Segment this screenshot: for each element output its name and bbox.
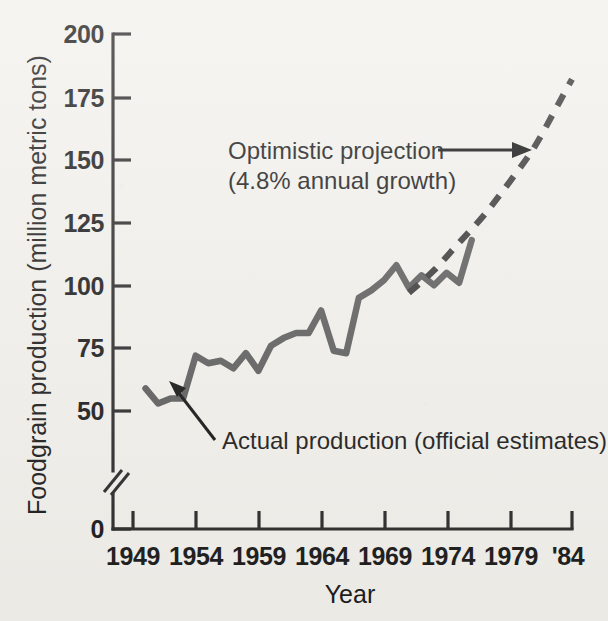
x-axis-title: Year	[325, 580, 376, 608]
chart-svg: Foodgrain production (million metric ton…	[0, 0, 608, 621]
series-actual-production	[146, 240, 472, 403]
optimistic-projection-line1: Optimistic projection	[228, 137, 444, 164]
annotation-actual-production: Actual production (official estimates)	[169, 381, 607, 454]
x-tick-label-1964: 1964	[295, 542, 350, 570]
y-tick-group	[113, 34, 131, 529]
x-tick-label-1959: 1959	[232, 542, 286, 570]
y-axis-title: Foodgrain production (million metric ton…	[23, 55, 51, 515]
y-tick-label-50: 50	[77, 397, 104, 425]
y-tick-label-150: 150	[63, 146, 104, 174]
y-tick-label-200: 200	[63, 20, 104, 48]
x-tick-group	[133, 511, 572, 529]
y-axis-break-icon	[104, 470, 129, 495]
x-tick-label-1984: '84	[552, 542, 585, 570]
arrow-up-left-icon	[169, 381, 215, 440]
y-tick-label-125: 125	[63, 209, 104, 237]
x-tick-label-1954: 1954	[169, 542, 224, 570]
chart-figure: Foodgrain production (million metric ton…	[0, 0, 608, 621]
y-tick-labels: 200 175 150 125 100 75 50 0	[63, 20, 104, 543]
arrow-right-icon	[438, 142, 532, 158]
x-tick-label-1974: 1974	[421, 542, 476, 570]
x-tick-label-1949: 1949	[106, 542, 160, 570]
optimistic-projection-line2: (4.8% annual growth)	[228, 167, 456, 194]
y-tick-label-75: 75	[77, 334, 105, 362]
actual-production-label: Actual production (official estimates)	[222, 427, 607, 454]
x-tick-label-1979: 1979	[484, 542, 538, 570]
y-axis	[104, 34, 129, 529]
x-tick-labels: 1949 1954 1959 1964 1969 1974 1979 '84	[106, 542, 585, 570]
y-tick-label-175: 175	[63, 84, 104, 112]
y-tick-label-0: 0	[90, 515, 104, 543]
y-tick-label-100: 100	[63, 272, 104, 300]
x-tick-label-1969: 1969	[358, 542, 412, 570]
annotation-optimistic-projection: Optimistic projection (4.8% annual growt…	[228, 137, 532, 194]
